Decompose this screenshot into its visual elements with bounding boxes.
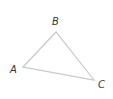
vertex-label-b: B xyxy=(52,16,59,27)
vertex-label-a: A xyxy=(9,64,17,75)
vertex-label-c: C xyxy=(98,79,105,90)
triangle-diagram: B A C xyxy=(0,0,113,99)
triangle-abc xyxy=(23,32,94,80)
